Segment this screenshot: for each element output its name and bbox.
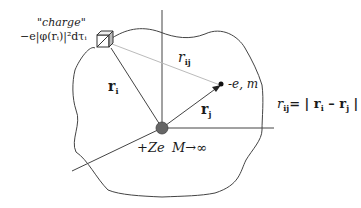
r-i-sub: i (115, 86, 118, 96)
formula-ri: r (314, 96, 321, 111)
nucleus (156, 122, 168, 134)
electron-label: -e, m (228, 78, 258, 90)
r-j-sub: j (208, 109, 211, 119)
mass-limit-label: M→∞ (172, 141, 207, 154)
r-ij-main: r (178, 49, 185, 65)
formula-eq: = | (289, 96, 314, 111)
r-i-label: ri (108, 79, 118, 95)
charge-expression-label: −e|φ(rᵢ)|²dτᵢ (20, 31, 87, 42)
r-ij-label: rij (178, 50, 191, 66)
r-ij-line (112, 44, 220, 85)
charge-title-label: "charge" (37, 17, 86, 28)
electron-dot (219, 82, 224, 87)
volume-element-cube-icon (97, 31, 113, 47)
formula-minus: – (324, 96, 340, 111)
nucleus-label: +Ze (137, 141, 165, 154)
charge-cloud-outline (73, 29, 263, 197)
distance-formula: rij= | ri – rj | (277, 97, 358, 112)
r-j-label: rj (201, 102, 211, 118)
r-ij-sub: ij (185, 57, 191, 67)
formula-end: | (349, 96, 358, 111)
